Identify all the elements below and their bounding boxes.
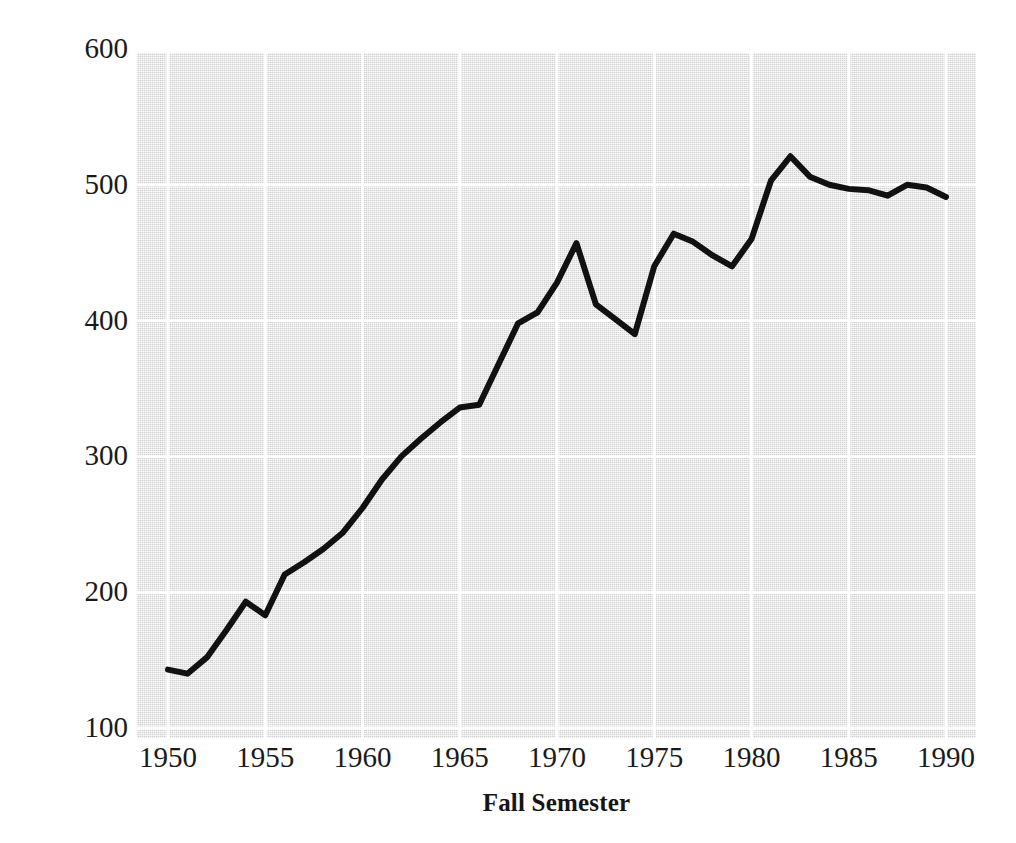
y-tick-label-400: 400 xyxy=(12,306,128,335)
x-axis-tick-labels: 195019551960196519701975198019851990 xyxy=(0,743,1016,787)
y-tick-label-300: 300 xyxy=(12,441,128,470)
y-tick-label-500: 500 xyxy=(12,170,128,199)
plot-svg xyxy=(137,53,976,738)
y-tick-label-600: 600 xyxy=(12,34,128,63)
x-tick-label-1990: 1990 xyxy=(886,743,1006,772)
y-tick-label-200: 200 xyxy=(12,577,128,606)
plot-area xyxy=(137,53,976,738)
y-axis-tick-labels: 100200300400500600 xyxy=(0,0,128,843)
x-axis-title: Fall Semester xyxy=(137,789,976,817)
gridlines xyxy=(137,53,976,738)
y-tick-label-100: 100 xyxy=(12,713,128,742)
chart-figure: Total Graduate Enrollment 10020030040050… xyxy=(0,0,1016,843)
